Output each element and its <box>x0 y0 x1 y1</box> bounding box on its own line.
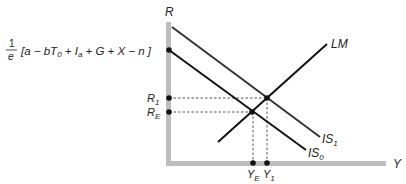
equilibrium-e-dot <box>249 109 255 115</box>
r-axis-label: R <box>165 5 174 19</box>
is1-curve <box>172 27 320 137</box>
re-dot <box>166 109 172 115</box>
is0-label: IS0 <box>308 146 324 162</box>
lm-curve <box>218 44 327 142</box>
y-axis <box>166 161 386 166</box>
fraction-denominator: e <box>8 51 14 62</box>
equilibrium-1-dot <box>264 95 270 101</box>
y1-dot <box>264 160 270 166</box>
y1-label: Y1 <box>263 168 275 183</box>
ye-label: YE <box>247 168 260 183</box>
y-axis-label: Y <box>393 157 402 171</box>
lm-label: LM <box>331 37 348 51</box>
intercept-expression: 1 e [a − bT0 + Ia + G + X − n ] <box>6 38 152 62</box>
r1-label: R1 <box>147 92 159 107</box>
is0-curve <box>169 50 306 150</box>
intercept-dot <box>166 47 172 53</box>
fraction-numerator: 1 <box>9 38 15 49</box>
r-axis <box>166 22 171 166</box>
bracket-expression: [a − bT0 + Ia + G + X − n ] <box>20 45 152 59</box>
ye-dot <box>250 160 256 166</box>
is-lm-diagram: R Y LM IS1 IS0 R1 RE YE Y1 1 e [a − bT0 … <box>0 0 406 184</box>
is1-label: IS1 <box>322 132 338 148</box>
re-label: RE <box>147 106 161 121</box>
r1-dot <box>166 95 172 101</box>
